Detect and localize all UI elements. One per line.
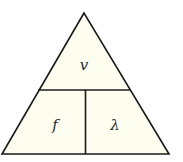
top-label-velocity: v — [80, 56, 89, 74]
bottom-right-label-wavelength: λ — [109, 116, 120, 134]
formula-triangle-diagram: v f λ — [0, 0, 183, 162]
triangle-svg: v f λ — [0, 0, 183, 162]
